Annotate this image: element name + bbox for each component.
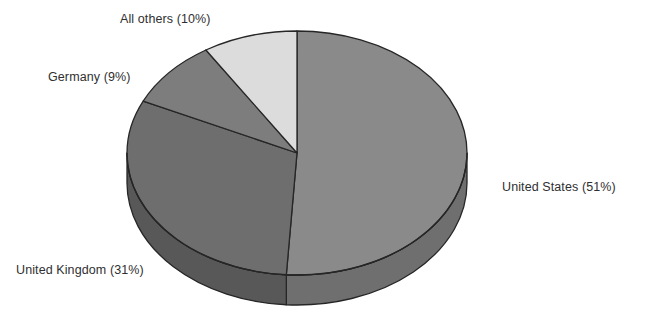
pie-chart-graphic bbox=[0, 0, 661, 329]
slice-label-all-others: All others (10%) bbox=[120, 12, 211, 27]
pie-chart: All others (10%) Germany (9%) United Kin… bbox=[0, 0, 661, 329]
slice-label-united-kingdom: United Kingdom (31%) bbox=[16, 263, 144, 278]
slice-label-united-states: United States (51%) bbox=[502, 180, 616, 195]
slice-label-germany: Germany (9%) bbox=[48, 70, 130, 85]
pie-slices bbox=[127, 31, 467, 305]
